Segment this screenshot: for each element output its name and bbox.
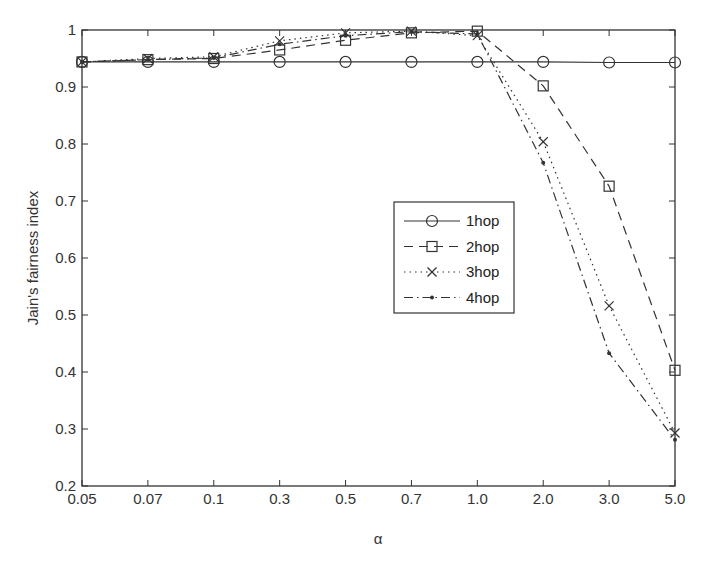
x-tick-label: 0.3: [269, 490, 290, 507]
series-layer: [77, 26, 681, 442]
y-tick-label: 0.2: [55, 477, 76, 494]
y-tick-label: 0.6: [55, 249, 76, 266]
data-point: [605, 301, 614, 310]
y-axis-label: Jain's fairness index: [24, 190, 41, 325]
data-point: [212, 56, 216, 60]
y-tick-label: 0.9: [55, 78, 76, 95]
x-tick-label: 0.07: [133, 490, 162, 507]
x-tick-label: 1.0: [467, 490, 488, 507]
dot-marker: [212, 56, 216, 60]
y-tick-label: 0.3: [55, 420, 76, 437]
dot-marker: [278, 42, 282, 46]
x-tick-label: 3.0: [599, 490, 620, 507]
dot-marker: [146, 58, 150, 62]
series-2hop: [77, 26, 680, 375]
dot-marker: [541, 161, 545, 165]
x-tick-label: 0.7: [401, 490, 422, 507]
series-line-1hop: [82, 62, 675, 63]
legend: 1hop2hop3hop4hop: [394, 202, 514, 313]
dot-marker: [430, 296, 434, 300]
series-1hop: [77, 56, 681, 68]
series-3hop: [78, 27, 680, 438]
x-axis-label: α: [374, 530, 383, 547]
legend-label: 3hop: [466, 263, 499, 280]
legend-label: 2hop: [466, 238, 499, 255]
y-tick-label: 0.5: [55, 306, 76, 323]
dot-marker: [607, 351, 611, 355]
x-tick-label: 0.1: [203, 490, 224, 507]
data-point: [607, 351, 611, 355]
data-point: [539, 137, 548, 146]
data-point: [278, 42, 282, 46]
series-line-2hop: [82, 31, 675, 370]
series-line-3hop: [82, 31, 675, 433]
plot-frame: [82, 30, 675, 486]
data-point: [146, 58, 150, 62]
legend-label: 4hop: [466, 289, 499, 306]
legend-marker: [430, 296, 434, 300]
axes: 0.050.070.10.30.50.71.02.03.05.00.20.30.…: [55, 21, 685, 507]
x-tick-label: 2.0: [533, 490, 554, 507]
data-point: [541, 161, 545, 165]
x-tick-label: 0.5: [335, 490, 356, 507]
chart: 0.050.070.10.30.50.71.02.03.05.00.20.30.…: [0, 0, 709, 564]
series-line-4hop: [82, 32, 675, 440]
legend-label: 1hop: [466, 212, 499, 229]
x-tick-label: 5.0: [665, 490, 686, 507]
series-4hop: [80, 30, 677, 442]
y-tick-label: 0.7: [55, 192, 76, 209]
y-tick-label: 1: [68, 21, 76, 38]
y-tick-label: 0.4: [55, 363, 76, 380]
y-tick-label: 0.8: [55, 135, 76, 152]
